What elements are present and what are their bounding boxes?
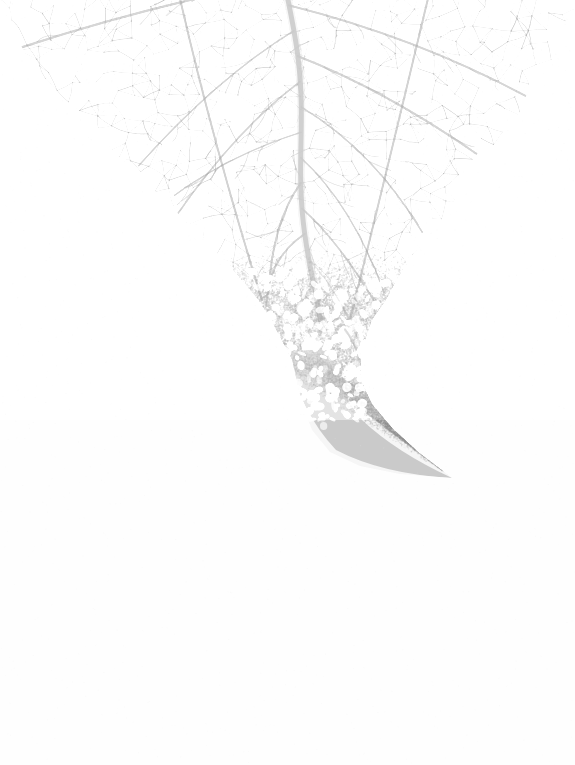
image-canvas: Leaf skeleton Skeletonised leaf specimen… <box>0 0 575 765</box>
leaf-skeleton-photograph <box>0 0 575 765</box>
